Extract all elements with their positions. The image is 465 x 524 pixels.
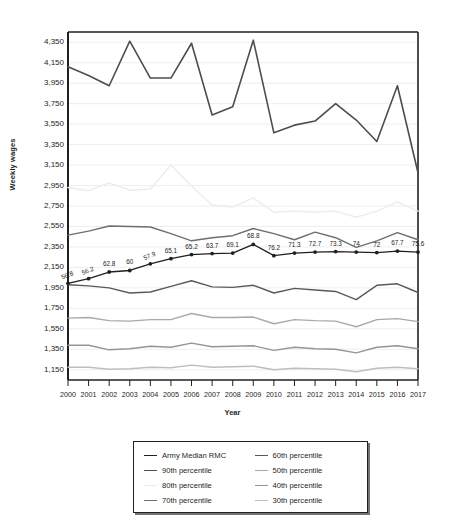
- data-point: [87, 277, 91, 281]
- y-axis-tick-label: 2,150: [24, 263, 64, 271]
- legend-item-label: 30th percentile: [273, 493, 323, 508]
- legend-item-label: 60th percentile: [273, 448, 323, 463]
- data-point-label: 74: [353, 240, 361, 247]
- y-axis-tick-label: 1,350: [24, 345, 64, 353]
- legend-item[interactable]: Army Median RMC: [144, 448, 249, 463]
- chart-plot-area: 4,3504,1503,9503,7503,5503,3503,1502,950…: [0, 0, 465, 420]
- x-axis-title: Year: [0, 408, 465, 417]
- legend-item-label: Army Median RMC: [162, 448, 226, 463]
- data-point-label: 63.7: [206, 242, 219, 249]
- y-axis-tick-label: 4,150: [24, 59, 64, 67]
- y-axis-tick-label: 2,750: [24, 202, 64, 210]
- y-axis-tick-label: 1,550: [24, 325, 64, 333]
- data-point-label: 69.1: [226, 241, 239, 248]
- legend-item-label: 80th percentile: [162, 478, 212, 493]
- data-point: [231, 251, 235, 255]
- legend-item-label: 90th percentile: [162, 463, 212, 478]
- data-point-label: 73.3: [329, 240, 342, 247]
- data-point: [416, 250, 420, 254]
- data-point: [272, 254, 276, 258]
- y-axis-tick-label: 1,950: [24, 284, 64, 292]
- legend-item[interactable]: 50th percentile: [255, 463, 360, 478]
- data-point-label: 65.2: [185, 243, 198, 250]
- y-axis-tick-label: 2,350: [24, 243, 64, 251]
- data-point: [354, 250, 358, 254]
- y-axis-tick-labels: 4,3504,1503,9503,7503,5503,3503,1502,950…: [20, 0, 64, 400]
- data-point: [251, 242, 255, 246]
- legend-item-label: 50th percentile: [273, 463, 323, 478]
- y-axis-tick-label: 3,150: [24, 161, 64, 169]
- data-point: [190, 253, 194, 257]
- data-point-label: 65.1: [165, 247, 178, 254]
- data-point-label: 67.7: [391, 239, 404, 246]
- data-point-label: 68.8: [247, 232, 260, 239]
- data-point-label: 62.8: [103, 260, 116, 267]
- data-point-label: 75.6: [412, 240, 425, 247]
- y-axis-tick-label: 2,550: [24, 222, 64, 230]
- y-axis-tick-label: 2,950: [24, 182, 64, 190]
- y-axis-tick-label: 4,350: [24, 38, 64, 46]
- data-point-label: 72: [373, 241, 381, 248]
- data-point: [210, 252, 214, 256]
- data-point: [313, 250, 317, 254]
- legend-color-swatch: [255, 470, 268, 471]
- legend-color-swatch: [144, 455, 157, 456]
- legend-item-label: 70th percentile: [162, 493, 212, 508]
- legend-item[interactable]: 90th percentile: [144, 463, 249, 478]
- legend-color-swatch: [144, 470, 157, 471]
- data-point-label: 72.7: [309, 240, 322, 247]
- legend-item[interactable]: 70th percentile: [144, 493, 249, 508]
- chart-legend: Army Median RMC60th percentile90th perce…: [133, 441, 368, 513]
- data-point: [148, 262, 152, 266]
- data-point: [334, 250, 338, 254]
- data-point-label: 71.3: [288, 241, 301, 248]
- legend-color-swatch: [144, 485, 157, 486]
- x-axis-tick-label: 2017: [405, 390, 431, 399]
- y-axis-title: Weekly wages: [8, 115, 17, 215]
- data-point: [375, 251, 379, 255]
- legend-color-swatch: [255, 455, 268, 456]
- y-axis-tick-label: 3,950: [24, 79, 64, 87]
- y-axis-tick-label: 3,750: [24, 100, 64, 108]
- legend-item[interactable]: 30th percentile: [255, 493, 360, 508]
- data-point: [169, 257, 173, 261]
- data-point-label: 76.2: [268, 244, 281, 251]
- line-chart-svg: 56.856.262.86057.965.165.263.769.168.876…: [0, 0, 465, 420]
- data-point: [293, 251, 297, 255]
- legend-item-label: 40th percentile: [273, 478, 323, 493]
- y-axis-tick-label: 1,150: [24, 366, 64, 374]
- data-point: [396, 249, 400, 253]
- data-point: [107, 270, 111, 274]
- legend-item[interactable]: 80th percentile: [144, 478, 249, 493]
- y-axis-tick-label: 3,550: [24, 120, 64, 128]
- legend-item[interactable]: 40th percentile: [255, 478, 360, 493]
- data-point: [128, 269, 132, 273]
- chart-page: 4,3504,1503,9503,7503,5503,3503,1502,950…: [0, 0, 465, 524]
- legend-color-swatch: [255, 500, 268, 501]
- data-point: [66, 281, 70, 285]
- legend-color-swatch: [255, 485, 268, 486]
- legend-item[interactable]: 60th percentile: [255, 448, 360, 463]
- data-point-label: 60: [126, 258, 134, 265]
- legend-color-swatch: [144, 500, 157, 501]
- y-axis-tick-label: 3,350: [24, 141, 64, 149]
- y-axis-tick-label: 1,750: [24, 304, 64, 312]
